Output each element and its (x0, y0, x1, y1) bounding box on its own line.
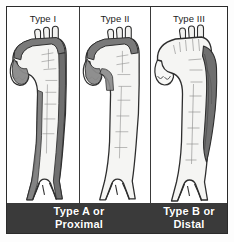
panel-type-2: Type II (80, 7, 151, 203)
panel-title-type-2: Type II (80, 14, 150, 24)
aorta-body-3 (157, 37, 211, 201)
panel-type-1: Type I (7, 7, 80, 203)
banner-proximal-line-1: Type A or (54, 205, 105, 218)
aortic-dissection-figure: Type I (0, 0, 234, 242)
aorta-illustration-type-3 (151, 24, 227, 203)
panel-title-type-3: Type III (151, 14, 227, 24)
aorta-illustration-type-2 (80, 24, 150, 203)
aorta-drawing-type-3 (151, 24, 227, 203)
panel-type-3: Type III (151, 7, 227, 203)
banner-proximal-line-2: Proximal (55, 218, 103, 231)
banner-distal-line-2: Distal (173, 218, 204, 231)
panel-row: Type I (7, 7, 227, 203)
aorta-drawing-type-2 (80, 24, 150, 203)
figure-frame: Type I (6, 6, 228, 234)
aorta-drawing-type-1 (7, 24, 79, 203)
banner-group-proximal: Type A or Proximal (7, 203, 151, 233)
banner-distal-line-1: Type B or (163, 205, 215, 218)
aorta-illustration-type-1 (7, 24, 79, 203)
aorta-body-2 (86, 38, 139, 200)
classification-banner: Type A or Proximal Type B or Distal (7, 203, 227, 233)
panel-title-type-1: Type I (7, 14, 79, 24)
banner-group-distal: Type B or Distal (151, 203, 227, 233)
